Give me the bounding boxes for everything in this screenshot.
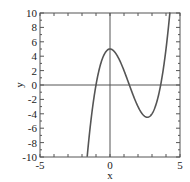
y-tick-label: -4 (28, 108, 38, 120)
y-tick-label: -2 (28, 93, 37, 105)
y-tick-label: -6 (28, 122, 38, 134)
y-tick-label: 6 (32, 36, 38, 48)
y-tick-label: 2 (32, 65, 38, 77)
y-tick-label: 10 (26, 7, 38, 19)
y-axis-label: y (13, 82, 25, 88)
x-axis-label: x (107, 169, 113, 181)
y-tick-label: -8 (28, 137, 38, 149)
y-tick-label: 0 (32, 79, 38, 91)
chart: 1086420-2-4-6-8-10-505 x y (0, 0, 190, 182)
y-tick-label: 4 (32, 50, 38, 62)
y-tick-label: 8 (32, 21, 38, 33)
x-tick-label: -5 (35, 159, 45, 171)
x-tick-label: 5 (177, 159, 183, 171)
